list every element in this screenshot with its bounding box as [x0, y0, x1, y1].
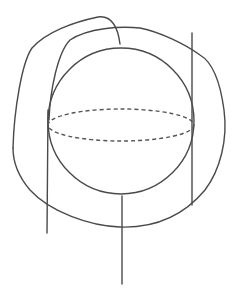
sphere-diagram	[0, 0, 239, 299]
dashed-equator	[48, 109, 194, 141]
sphere-outline	[48, 48, 194, 194]
outer-loop-left	[13, 17, 120, 148]
diagram-canvas	[0, 0, 239, 299]
left-vertical-line	[47, 110, 48, 233]
